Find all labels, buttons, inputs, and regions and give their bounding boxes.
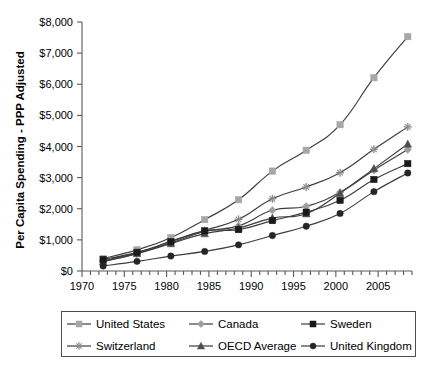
data-point-marker bbox=[302, 183, 310, 191]
data-point-marker bbox=[303, 209, 309, 215]
data-point-marker bbox=[134, 249, 140, 255]
data-point-marker bbox=[337, 122, 343, 128]
data-point-marker bbox=[269, 207, 277, 215]
legend-marker-star-icon bbox=[66, 340, 92, 352]
plot-area: Per Capita Spending - PPP Adjusted $0$1,… bbox=[0, 0, 431, 300]
legend-item-label: United Kingdom bbox=[330, 340, 412, 352]
x-tick-label: 1995 bbox=[281, 280, 305, 292]
line-chart-svg: Per Capita Spending - PPP Adjusted $0$1,… bbox=[0, 0, 431, 300]
data-point-marker bbox=[269, 232, 275, 238]
data-point-marker bbox=[100, 263, 106, 269]
series-switzerland bbox=[99, 123, 412, 266]
y-tick-label: $8,000 bbox=[39, 16, 73, 28]
legend-item-label: Switzerland bbox=[96, 340, 155, 352]
legend-item-united-states[interactable]: United States bbox=[66, 318, 188, 330]
x-axis-ticks: 19701975198019851990199520002005 bbox=[70, 271, 412, 292]
series-united-states bbox=[100, 33, 411, 261]
y-tick-label: $2,000 bbox=[39, 203, 73, 215]
y-tick-label: $3,000 bbox=[39, 172, 73, 184]
data-point-marker bbox=[371, 176, 377, 182]
data-point-marker bbox=[371, 75, 377, 81]
data-point-marker bbox=[235, 197, 241, 203]
legend-item-label: Sweden bbox=[330, 318, 372, 330]
y-tick-label: $0 bbox=[61, 265, 73, 277]
x-tick-label: 1975 bbox=[112, 280, 136, 292]
chart-legend: United StatesCanadaSwedenSwitzerlandOECD… bbox=[61, 311, 416, 357]
data-point-marker bbox=[337, 197, 343, 203]
data-point-marker bbox=[371, 188, 377, 194]
legend-item-label: Canada bbox=[218, 318, 258, 330]
data-point-marker bbox=[235, 226, 241, 232]
y-axis-title: Per Capita Spending - PPP Adjusted bbox=[14, 51, 26, 248]
data-point-marker bbox=[268, 195, 276, 203]
data-point-marker bbox=[201, 228, 207, 234]
legend-item-label: OECD Average bbox=[218, 340, 296, 352]
data-series-layer bbox=[99, 33, 412, 269]
y-tick-label: $4,000 bbox=[39, 141, 73, 153]
legend-item-label: United States bbox=[96, 318, 165, 330]
data-point-marker bbox=[405, 33, 411, 39]
x-tick-label: 2000 bbox=[324, 280, 348, 292]
data-point-marker bbox=[134, 258, 140, 264]
x-tick-label: 1985 bbox=[197, 280, 221, 292]
series-line bbox=[103, 144, 408, 261]
data-point-marker bbox=[405, 160, 411, 166]
data-point-marker bbox=[235, 242, 241, 248]
series-line bbox=[103, 150, 408, 261]
data-point-marker bbox=[370, 145, 378, 153]
legend-item-switzerland[interactable]: Switzerland bbox=[66, 340, 188, 352]
y-axis-ticks: $0$1,000$2,000$3,000$4,000$5,000$6,000$7… bbox=[39, 16, 82, 277]
x-tick-label: 1980 bbox=[154, 280, 178, 292]
data-point-marker bbox=[168, 253, 174, 259]
legend-marker-diamond-icon bbox=[188, 318, 214, 330]
data-point-marker bbox=[303, 223, 309, 229]
legend-item-canada[interactable]: Canada bbox=[188, 318, 300, 330]
data-point-marker bbox=[201, 248, 207, 254]
legend-marker-triangle-icon bbox=[188, 340, 214, 352]
legend-item-oecd-average[interactable]: OECD Average bbox=[188, 340, 300, 352]
y-tick-label: $7,000 bbox=[39, 47, 73, 59]
series-line bbox=[103, 127, 408, 262]
data-point-marker bbox=[404, 123, 412, 131]
data-point-marker bbox=[404, 140, 412, 147]
y-tick-label: $1,000 bbox=[39, 234, 73, 246]
y-axis-title-text: Per Capita Spending - PPP Adjusted bbox=[14, 51, 26, 248]
data-point-marker bbox=[337, 210, 343, 216]
data-point-marker bbox=[168, 239, 174, 245]
legend-marker-square-icon bbox=[300, 318, 326, 330]
y-tick-label: $6,000 bbox=[39, 78, 73, 90]
x-tick-label: 1990 bbox=[239, 280, 263, 292]
data-point-marker bbox=[269, 168, 275, 174]
data-point-marker bbox=[100, 256, 106, 262]
data-point-marker bbox=[405, 170, 411, 176]
data-point-marker bbox=[303, 147, 309, 153]
data-point-marker bbox=[201, 216, 207, 222]
x-tick-label: 2005 bbox=[366, 280, 390, 292]
x-tick-label: 1970 bbox=[70, 280, 94, 292]
legend-item-united-kingdom[interactable]: United Kingdom bbox=[300, 340, 418, 352]
legend-marker-circle-icon bbox=[300, 340, 326, 352]
data-point-marker bbox=[269, 217, 275, 223]
series-oecd-average bbox=[99, 140, 411, 265]
data-point-marker bbox=[336, 169, 344, 177]
chart-figure: Per Capita Spending - PPP Adjusted $0$1,… bbox=[0, 0, 431, 365]
legend-marker-square-icon bbox=[66, 318, 92, 330]
y-tick-label: $5,000 bbox=[39, 109, 73, 121]
legend-item-sweden[interactable]: Sweden bbox=[300, 318, 418, 330]
